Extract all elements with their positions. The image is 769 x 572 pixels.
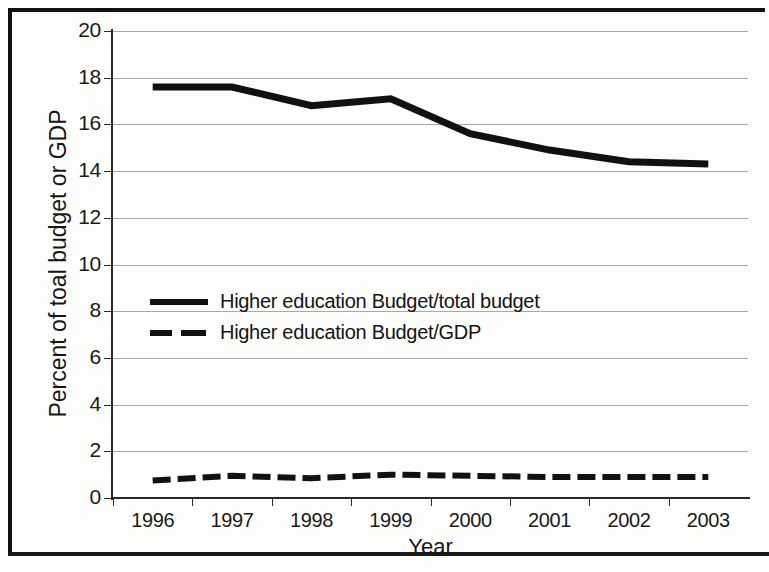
page-frame-left-rule: [8, 8, 12, 552]
legend-label-0: Higher education Budget/total budget: [208, 290, 539, 313]
x-axis-tick: [589, 498, 590, 506]
legend: Higher education Budget/total budget Hig…: [150, 286, 570, 348]
y-axis-tick-label: 20: [61, 18, 101, 42]
x-axis-tick: [431, 498, 432, 506]
y-axis-tick: [104, 31, 112, 32]
x-axis-tick: [669, 498, 670, 506]
y-axis-tick: [104, 265, 112, 266]
gridline: [113, 265, 748, 266]
legend-swatch-solid-line-icon: [150, 291, 208, 313]
gridline: [113, 31, 748, 32]
gridline: [113, 451, 748, 452]
legend-swatch-dashed-line-icon: [150, 322, 208, 344]
y-axis-label: Percent of toal budget or GDP: [45, 54, 72, 474]
x-axis-tick: [192, 498, 193, 506]
gridline: [113, 124, 748, 125]
x-axis-tick-label: 1997: [197, 509, 267, 532]
gridline: [113, 171, 748, 172]
x-axis-tick-label: 1998: [276, 509, 346, 532]
x-axis-label: Year: [113, 534, 748, 560]
legend-label-1: Higher education Budget/GDP: [208, 321, 481, 344]
chart-figure: 02468101214161820 1996199719981999200020…: [0, 0, 769, 572]
x-axis-tick-label: 2001: [515, 509, 585, 532]
y-axis-tick: [104, 358, 112, 359]
gridline: [113, 358, 748, 359]
y-axis-tick: [104, 171, 112, 172]
y-axis-tick: [104, 405, 112, 406]
gridline: [113, 218, 748, 219]
x-axis-tick-label: 2000: [435, 509, 505, 532]
legend-item-1: Higher education Budget/GDP: [150, 317, 570, 348]
y-axis-tick: [104, 78, 112, 79]
page-frame-top-rule: [8, 8, 765, 12]
gridline: [113, 405, 748, 406]
x-axis-tick: [113, 498, 114, 506]
x-axis-tick: [510, 498, 511, 506]
x-axis-tick-label: 2003: [673, 509, 743, 532]
x-axis-tick-label: 2002: [594, 509, 664, 532]
x-axis-tick: [351, 498, 352, 506]
x-axis-tick-label: 1996: [118, 509, 188, 532]
y-axis-tick-label: 0: [61, 485, 101, 509]
plot-area: [113, 31, 748, 498]
y-axis-tick: [104, 498, 112, 499]
x-axis-tick: [272, 498, 273, 506]
x-axis-tick-label: 1999: [356, 509, 426, 532]
y-axis-tick: [104, 311, 112, 312]
y-axis-tick: [104, 451, 112, 452]
gridline: [113, 78, 748, 79]
y-axis-tick: [104, 124, 112, 125]
y-axis-tick: [104, 218, 112, 219]
legend-item-0: Higher education Budget/total budget: [150, 286, 570, 317]
